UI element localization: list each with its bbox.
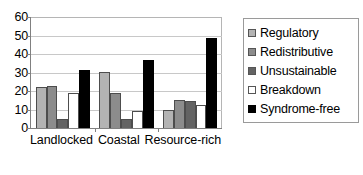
legend-label: Redistributive (260, 45, 333, 59)
y-axis-tick-label: 20 (2, 85, 28, 98)
bar (79, 70, 90, 128)
bar-groups (31, 17, 222, 128)
legend-swatch-icon (248, 67, 256, 75)
bar (163, 110, 174, 128)
legend-swatch-icon (248, 29, 256, 37)
x-axis-tickmark (158, 128, 159, 132)
bar (132, 111, 143, 128)
bar (206, 38, 217, 128)
y-axis-tick-label: 50 (2, 29, 28, 42)
bar (110, 93, 121, 128)
x-axis-category-labels: LandlockedCoastalResource-rich (30, 133, 221, 147)
y-axis-tickmark (27, 128, 31, 129)
legend-label: Breakdown (260, 83, 321, 97)
legend-item: Redistributive (248, 42, 355, 61)
bar (68, 93, 79, 128)
legend-label: Syndrome-free (260, 102, 340, 116)
bar (143, 60, 154, 128)
bar (99, 72, 110, 128)
legend-item: Regulatory (248, 23, 355, 42)
legend-label: Regulatory (260, 26, 318, 40)
x-axis-category-label: Landlocked (30, 133, 93, 147)
bar-group (95, 17, 159, 128)
bar-group (158, 17, 222, 128)
bar (47, 86, 58, 128)
bar (121, 119, 132, 128)
legend-item: Breakdown (248, 80, 355, 99)
y-axis-tick-label: 40 (2, 48, 28, 61)
bar (174, 100, 185, 128)
x-axis-category-label: Resource-rich (144, 133, 221, 147)
legend-item: Syndrome-free (248, 99, 355, 118)
y-axis-tick-label: 30 (2, 66, 28, 79)
bar-group-bars (99, 17, 153, 128)
bar-group-bars (163, 17, 217, 128)
chart-legend: RegulatoryRedistributiveUnsustainableBre… (243, 18, 359, 123)
bar (185, 101, 196, 128)
legend-swatch-icon (248, 105, 256, 113)
legend-label: Unsustainable (260, 64, 337, 78)
y-axis-tick-label: 60 (2, 11, 28, 24)
bar-group-bars (36, 17, 90, 128)
legend-item: Unsustainable (248, 61, 355, 80)
bar (36, 87, 47, 128)
legend-swatch-icon (248, 48, 256, 56)
chart-axes (30, 17, 222, 129)
x-axis-tickmark (95, 128, 96, 132)
bar (196, 105, 207, 128)
y-axis-tick-labels: 0102030405060 (0, 0, 28, 160)
legend-swatch-icon (248, 86, 256, 94)
y-axis-tick-label: 10 (2, 103, 28, 116)
bar-group (31, 17, 95, 128)
x-axis-category-label: Coastal (93, 133, 145, 147)
bar-chart: 0102030405060 LandlockedCoastalResource-… (0, 0, 363, 175)
bar (57, 119, 68, 128)
y-axis-tick-label: 0 (2, 122, 28, 135)
